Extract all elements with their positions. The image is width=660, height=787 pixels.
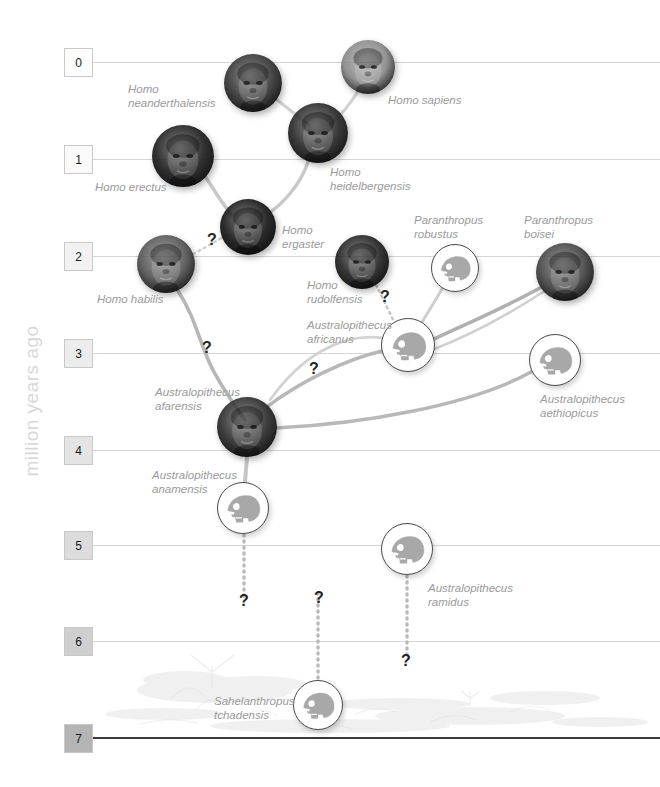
uncertainty-question-mark-6: ? [314,589,324,607]
species-node-boisei[interactable] [536,243,594,301]
species-node-heidelbergensis[interactable] [288,103,348,163]
hominid-face-photo [137,235,195,293]
link-afarensis-to-anamensis [245,457,247,482]
skull-profile-icon [534,339,576,381]
species-node-ergaster[interactable] [220,199,276,255]
skull-profile-icon [387,324,430,367]
link-africanus-to-afarensis2 [270,337,383,400]
link-boisei-to-africanus [428,288,540,342]
skull-profile-icon [386,528,428,570]
species-label-heidelbergensis: Homo heidelbergensis [330,165,411,193]
skull-profile-icon [298,685,338,725]
uncertainty-question-mark-2: ? [380,288,390,306]
link-aethiopicus-to-afarensis [276,372,531,428]
species-label-afarensis: Australopithecus afarensis [155,385,240,413]
species-label-tchadensis: Sahelanthropus tchadensis [214,694,295,722]
species-node-erectus[interactable] [152,125,214,187]
species-node-habilis[interactable] [137,235,195,293]
link-africanus-to-afarensis [268,351,382,406]
hominid-face-photo [152,125,214,187]
species-node-aethiopicus[interactable] [529,334,581,386]
species-label-sapiens: Homo sapiens [388,93,462,107]
species-node-robustus[interactable] [431,244,479,292]
hominid-face-photo [224,54,282,112]
uncertainty-question-mark-1: ? [207,231,217,249]
species-label-robustus: Paranthropus robustus [414,213,483,241]
uncertainty-question-mark-3: ? [202,339,212,357]
species-label-aethiopicus: Australopithecus aethiopicus [540,392,625,420]
uncertainty-question-mark-7: ? [401,652,411,670]
species-label-habilis: Homo habilis [97,292,163,306]
species-label-boisei: Paranthropus boisei [524,213,593,241]
species-node-tchadensis[interactable] [293,680,343,730]
evolution-timeline-chart: 01234567 million years ago Homo neandert… [0,0,660,787]
hominid-face-photo [220,199,276,255]
hominid-face-photo [288,103,348,163]
species-label-erectus: Homo erectus [95,180,167,194]
species-node-neanderthalensis[interactable] [224,54,282,112]
species-label-ergaster: Homo ergaster [282,223,324,251]
species-node-sapiens[interactable] [341,40,395,94]
link-boisei-to-aethiopicus [432,292,543,350]
species-label-neanderthalensis: Homo neanderthalensis [128,82,216,110]
uncertainty-question-mark-4: ? [309,360,319,378]
species-label-africanus: Australopithecus africanus [307,318,392,346]
hominid-face-photo [536,243,594,301]
species-label-rudolfensis: Homo rudolfensis [307,278,363,306]
species-node-ramidus[interactable] [381,523,433,575]
skull-profile-icon [436,249,474,287]
link-heidelbergensis-to-ergaster [268,162,308,214]
species-label-ramidus: Australopithecus ramidus [428,581,513,609]
hominid-face-photo [341,40,395,94]
species-label-anamensis: Australopithecus anamensis [152,468,237,496]
uncertainty-question-mark-5: ? [239,592,249,610]
